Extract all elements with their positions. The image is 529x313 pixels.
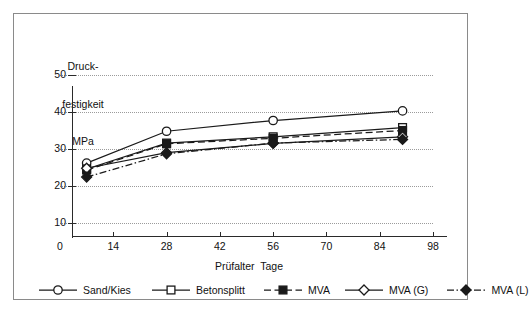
legend-label: MVA (G) [389, 284, 428, 296]
legend-key [263, 284, 303, 296]
legend-label: MVA (L) [491, 284, 528, 296]
series-line [87, 139, 403, 177]
series-sand-kies [82, 107, 406, 168]
series-betonsplitt [83, 124, 407, 173]
series-line [87, 111, 403, 163]
series-line [87, 131, 403, 171]
series-line [87, 128, 403, 169]
x-axis-title: Prüfalter Tage [164, 260, 334, 273]
data-point [162, 127, 170, 135]
series-mva-l [82, 134, 408, 182]
legend-key [446, 284, 486, 296]
data-series-layer [14, 14, 469, 301]
legend-item-mva[interactable]: MVA [263, 284, 330, 296]
legend-key [151, 284, 191, 296]
legend-item-mva-g[interactable]: MVA (G) [344, 284, 428, 296]
data-point [269, 116, 277, 124]
chart-legend: Sand/KiesBetonsplittMVAMVA (G)MVA (L) [38, 279, 458, 301]
legend-key [344, 284, 384, 296]
legend-key [38, 284, 78, 296]
legend-label: MVA [308, 284, 330, 296]
legend-item-sand-kies[interactable]: Sand/Kies [38, 284, 131, 296]
series-mva [83, 127, 407, 174]
legend-item-mva-l[interactable]: MVA (L) [446, 284, 528, 296]
legend-item-betonsplitt[interactable]: Betonsplitt [151, 284, 245, 296]
legend-label: Sand/Kies [83, 284, 131, 296]
chart-figure: Druck- festigkeit MPa 1020304050 0142842… [13, 13, 468, 300]
series-line [87, 137, 403, 168]
data-point [163, 140, 171, 148]
legend-label: Betonsplitt [196, 284, 245, 296]
data-point [398, 107, 406, 115]
